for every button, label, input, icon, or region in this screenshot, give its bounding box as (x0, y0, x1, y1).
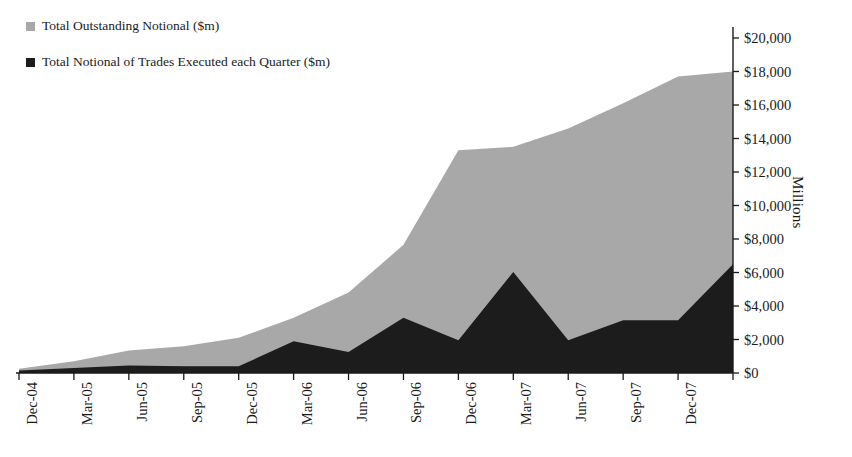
y-axis-tick-label: $12,000 (744, 165, 791, 179)
y-axis-tick-label: $8,000 (744, 232, 784, 246)
x-axis-tick-label: Mar-06 (300, 382, 314, 425)
x-axis-tick-label: Dec-06 (464, 382, 478, 425)
y-axis-tick-label: $6,000 (744, 266, 784, 280)
x-axis-tick-label: Jun-07 (574, 382, 588, 421)
y-axis-tick-label: $18,000 (744, 65, 791, 79)
x-axis-tick-label: Sep-07 (629, 382, 643, 423)
y-axis-title: Millions (789, 176, 806, 228)
x-axis-tick-label: Dec-04 (25, 382, 39, 425)
y-axis-tick-label: $20,000 (744, 31, 791, 45)
x-axis-tick-label: Sep-06 (409, 382, 423, 423)
y-axis-tick-label: $2,000 (744, 333, 784, 347)
x-axis-tick-label: Dec-05 (245, 382, 259, 425)
x-axis-tick-label: Jun-06 (355, 382, 369, 421)
y-axis-tick-label: $0 (744, 366, 759, 380)
x-axis-tick-label: Sep-05 (190, 382, 204, 423)
x-axis-tick-label: Mar-05 (80, 382, 94, 425)
x-axis-tick-label: Jun-05 (135, 382, 149, 421)
y-axis-labels: $20,000$18,000$16,000$14,000$12,000$10,0… (744, 0, 824, 400)
y-axis-tick-label: $10,000 (744, 199, 791, 213)
y-axis-tick-label: $16,000 (744, 98, 791, 112)
chart-page: Total Outstanding Notional ($m) Total No… (0, 0, 852, 457)
y-axis-tick-label: $4,000 (744, 299, 784, 313)
x-axis-tick-label: Mar-07 (519, 382, 533, 425)
x-axis-labels: Dec-04Mar-05Jun-05Sep-05Dec-05Mar-06Jun-… (0, 382, 852, 457)
y-axis-tick-label: $14,000 (744, 132, 791, 146)
x-axis-tick-label: Dec-07 (684, 382, 698, 425)
